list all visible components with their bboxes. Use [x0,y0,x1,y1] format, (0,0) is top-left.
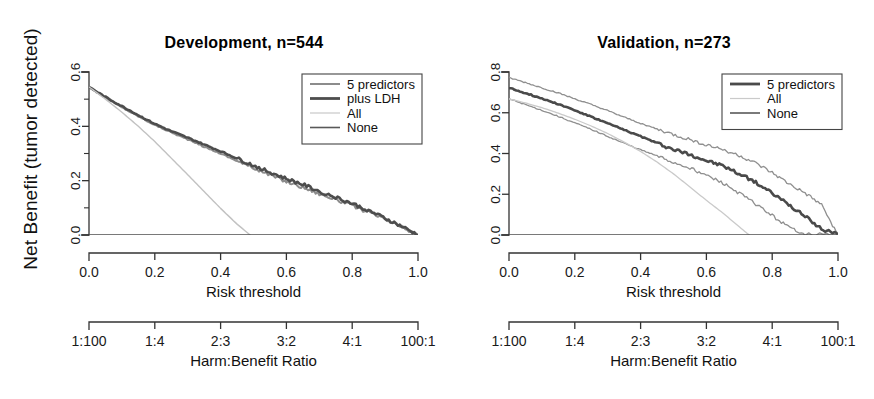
y-tick-label: 0.4 [488,144,503,163]
x-tick-label: 4:1 [342,333,362,349]
x-tick-label: 0.6 [697,264,717,280]
x-tick-label: 2:3 [211,333,231,349]
y-tick-label: 0.6 [488,103,503,122]
x-tick-label: 100:1 [820,333,855,349]
x-tick-label: 0.6 [277,264,297,280]
panel-title-development: Development, n=544 [34,34,454,52]
x-tick-label: 100:1 [400,333,435,349]
x-axis-title: Harm:Benefit Ratio [610,352,737,369]
x-axis-title: Harm:Benefit Ratio [190,352,317,369]
x-tick-label: 0.2 [145,264,165,280]
x-tick-label: 1.0 [408,264,428,280]
legend-label: plus LDH [347,91,400,106]
x-tick-label: 0.8 [342,264,362,280]
series-line [89,87,277,254]
legend-label: All [347,106,362,121]
x-tick-label: 0.0 [499,264,519,280]
y-tick-label: 0.0 [488,226,503,245]
figure-canvas: Net Benefit (tumor detected) Development… [0,0,874,399]
legend-label: None [767,106,798,121]
x-axis-title: Risk threshold [206,283,301,300]
y-tick-label: 0.0 [68,226,83,245]
x-tick-label: 0.4 [631,264,651,280]
x-tick-label: 0.4 [211,264,231,280]
x-tick-label: 1:100 [71,333,106,349]
plot-development: 0.00.20.40.65 predictorsplus LDHAllNone0… [34,0,454,399]
x-tick-label: 4:1 [762,333,782,349]
y-tick-label: 0.2 [68,171,83,190]
legend-label: None [347,120,378,135]
panel-title-validation: Validation, n=273 [454,34,874,52]
x-tick-label: 0.0 [79,264,99,280]
x-tick-label: 3:2 [277,333,297,349]
x-tick-label: 1.0 [828,264,848,280]
panel-development: Development, n=544 0.00.20.40.65 predict… [34,0,454,399]
x-tick-label: 0.2 [565,264,585,280]
y-tick-label: 0.4 [68,116,83,135]
x-tick-label: 2:3 [631,333,651,349]
legend-label: All [767,91,782,106]
x-tick-label: 1:4 [145,333,165,349]
legend-label: 5 predictors [347,77,415,92]
plot-validation: 0.00.20.40.60.85 predictorsAllNone0.00.2… [454,0,874,399]
x-tick-label: 3:2 [697,333,717,349]
x-tick-label: 1:100 [491,333,526,349]
y-tick-label: 0.2 [488,185,503,204]
legend-label: 5 predictors [767,77,835,92]
x-tick-label: 1:4 [565,333,585,349]
y-tick-label: 0.6 [68,63,83,82]
panel-validation: Validation, n=273 0.00.20.40.60.85 predi… [454,0,874,399]
x-axis-title: Risk threshold [626,283,721,300]
y-tick-label: 0.8 [488,63,503,82]
x-tick-label: 0.8 [762,264,782,280]
